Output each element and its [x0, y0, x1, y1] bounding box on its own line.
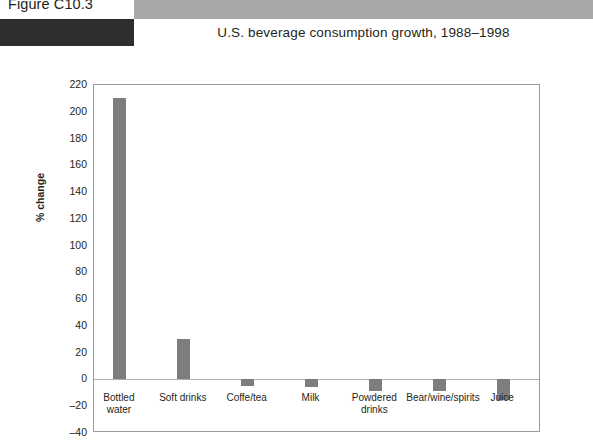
bar — [241, 379, 254, 386]
y-tick-label: 120 — [69, 212, 87, 224]
y-tick-label: 140 — [69, 185, 87, 197]
y-tick-label: 220 — [69, 78, 87, 90]
chart-title: U.S. beverage consumption growth, 1988–1… — [134, 19, 593, 46]
y-tick-label: 180 — [69, 132, 87, 144]
plot-area — [93, 84, 540, 432]
y-tick-label: 160 — [69, 158, 87, 170]
bar — [113, 98, 126, 379]
y-tick-label: 20 — [75, 346, 87, 358]
x-tick-label: Juice — [470, 392, 534, 404]
y-tick-label: 80 — [75, 265, 87, 277]
y-tick-label: 100 — [69, 239, 87, 251]
y-axis-label: % change — [34, 173, 46, 222]
bar — [177, 339, 190, 379]
y-tick-label: –20 — [69, 399, 87, 411]
y-tick-label: 200 — [69, 105, 87, 117]
x-tick-label: Milk — [279, 392, 343, 404]
y-axis-ticks: 220200180160140120100806040200–20–40 — [55, 84, 87, 432]
y-tick-label: 0 — [81, 372, 87, 384]
bar — [369, 379, 382, 391]
header-black-block — [0, 19, 134, 46]
x-tick-label: Bottled water — [87, 392, 151, 415]
plot-inner — [94, 85, 539, 431]
figure-number-tab: Figure C10.3 — [0, 0, 134, 19]
figure-number-label: Figure C10.3 — [8, 0, 93, 12]
y-tick-label: 60 — [75, 292, 87, 304]
bar — [305, 379, 318, 387]
x-tick-label: Coffe/tea — [215, 392, 279, 404]
x-tick-label: Soft drinks — [151, 392, 215, 404]
y-tick-label: 40 — [75, 319, 87, 331]
y-tick-label: –40 — [69, 426, 87, 438]
x-tick-label: Powdered drinks — [342, 392, 406, 415]
bar — [433, 379, 446, 391]
x-tick-label: Bear/wine/spirits — [406, 392, 470, 404]
